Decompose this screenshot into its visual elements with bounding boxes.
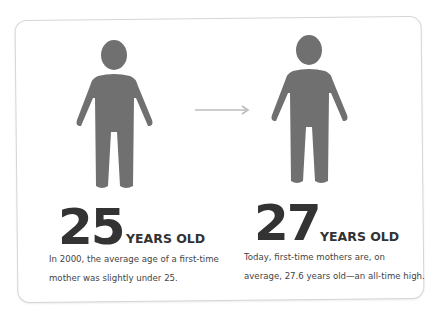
- person-icon-right: [271, 35, 351, 185]
- age-today-description-line1: Today, first-time mothers are, on: [244, 248, 385, 267]
- age-2000-description-line1: In 2000, the average age of a first-time: [49, 250, 219, 269]
- age-today-number: 27: [254, 198, 320, 248]
- age-today-unit: YEARS OLD: [320, 229, 399, 244]
- age-2000-description-line2: mother was slightly under 25.: [49, 269, 178, 288]
- arrow-right-icon: [195, 103, 251, 121]
- age-2000-unit: YEARS OLD: [126, 231, 205, 246]
- age-2000-number: 25: [58, 202, 124, 252]
- age-today-description-line2: average, 27.6 years old—an all-time high…: [244, 267, 425, 286]
- person-icon-left: [76, 40, 156, 190]
